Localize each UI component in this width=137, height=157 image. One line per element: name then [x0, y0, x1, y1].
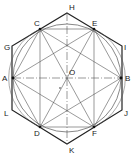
- small-marker-dot: [59, 87, 61, 89]
- line-BC: [40, 29, 121, 78]
- label-E: E: [92, 19, 97, 28]
- label-B: B: [125, 74, 130, 83]
- line-AE: [13, 29, 94, 78]
- point-E-dot: [93, 28, 96, 31]
- label-A: A: [2, 74, 8, 83]
- point-A-dot: [12, 77, 15, 80]
- label-C: C: [34, 19, 40, 28]
- label-O: O: [69, 68, 75, 77]
- label-J: J: [124, 109, 128, 118]
- label-F: F: [92, 129, 97, 138]
- hexagon-construction-diagram: H C E G I A O B L J D F K: [0, 0, 137, 157]
- line-BE: [94, 29, 121, 78]
- point-F-dot: [93, 126, 96, 129]
- point-C-dot: [39, 28, 42, 31]
- point-D-dot: [39, 126, 42, 129]
- label-H: H: [69, 3, 75, 12]
- label-K: K: [69, 146, 75, 155]
- label-I: I: [124, 43, 126, 52]
- line-BD: [40, 78, 121, 127]
- label-D: D: [34, 129, 40, 138]
- label-L: L: [4, 109, 9, 118]
- label-G: G: [4, 43, 10, 52]
- line-AF: [13, 78, 94, 127]
- line-AC: [13, 29, 40, 78]
- diagram-canvas: H C E G I A O B L J D F K: [0, 0, 137, 157]
- point-B-dot: [120, 77, 123, 80]
